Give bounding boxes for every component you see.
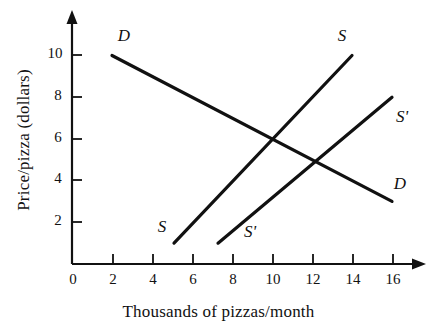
demand-curve-label-right: D (393, 174, 407, 193)
x-tick-label-2: 2 (109, 271, 117, 287)
x-axis-arrow-icon (412, 259, 426, 270)
curves-group (112, 56, 392, 244)
x-tick-label-16: 16 (386, 271, 402, 287)
supply-curve (174, 56, 352, 244)
y-axis-title-wrapper: Price/pizza (dollars) (14, 20, 34, 260)
x-axis-title: Thousands of pizzas/month (0, 302, 437, 322)
x-tick-label-6: 6 (189, 271, 197, 287)
y-tick-labels: 10 8 6 4 2 (48, 45, 63, 228)
chart-canvas: 10 8 6 4 2 0 2 4 6 8 10 12 14 16 (0, 0, 437, 336)
y-axis-arrow-icon (67, 10, 78, 24)
x-tick-label-8: 8 (229, 271, 237, 287)
demand-curve (112, 56, 392, 202)
supply-demand-figure: 10 8 6 4 2 0 2 4 6 8 10 12 14 16 (0, 0, 437, 336)
y-tick-label-10: 10 (48, 45, 63, 61)
x-tick-label-4: 4 (149, 271, 157, 287)
supply-curve-label-top: S (338, 26, 347, 45)
y-axis-title: Price/pizza (dollars) (14, 69, 33, 211)
y-tick-label-8: 8 (54, 87, 62, 103)
supply-curve-label-bottom: S (158, 217, 167, 236)
x-tick-label-10: 10 (266, 271, 281, 287)
x-tick-label-0: 0 (69, 271, 77, 287)
x-tick-label-14: 14 (346, 271, 362, 287)
supply-shifted-curve-label-bottom: S' (244, 222, 257, 241)
y-tick-label-6: 6 (54, 129, 62, 145)
x-tick-marks (113, 254, 393, 264)
y-tick-marks (72, 55, 82, 222)
x-tick-label-12: 12 (306, 271, 321, 287)
x-tick-labels: 0 2 4 6 8 10 12 14 16 (69, 271, 401, 287)
supply-shifted-curve-label-right: S' (396, 107, 409, 126)
demand-curve-label-top: D (117, 26, 131, 45)
y-tick-label-4: 4 (54, 170, 62, 186)
y-tick-label-2: 2 (54, 212, 62, 228)
